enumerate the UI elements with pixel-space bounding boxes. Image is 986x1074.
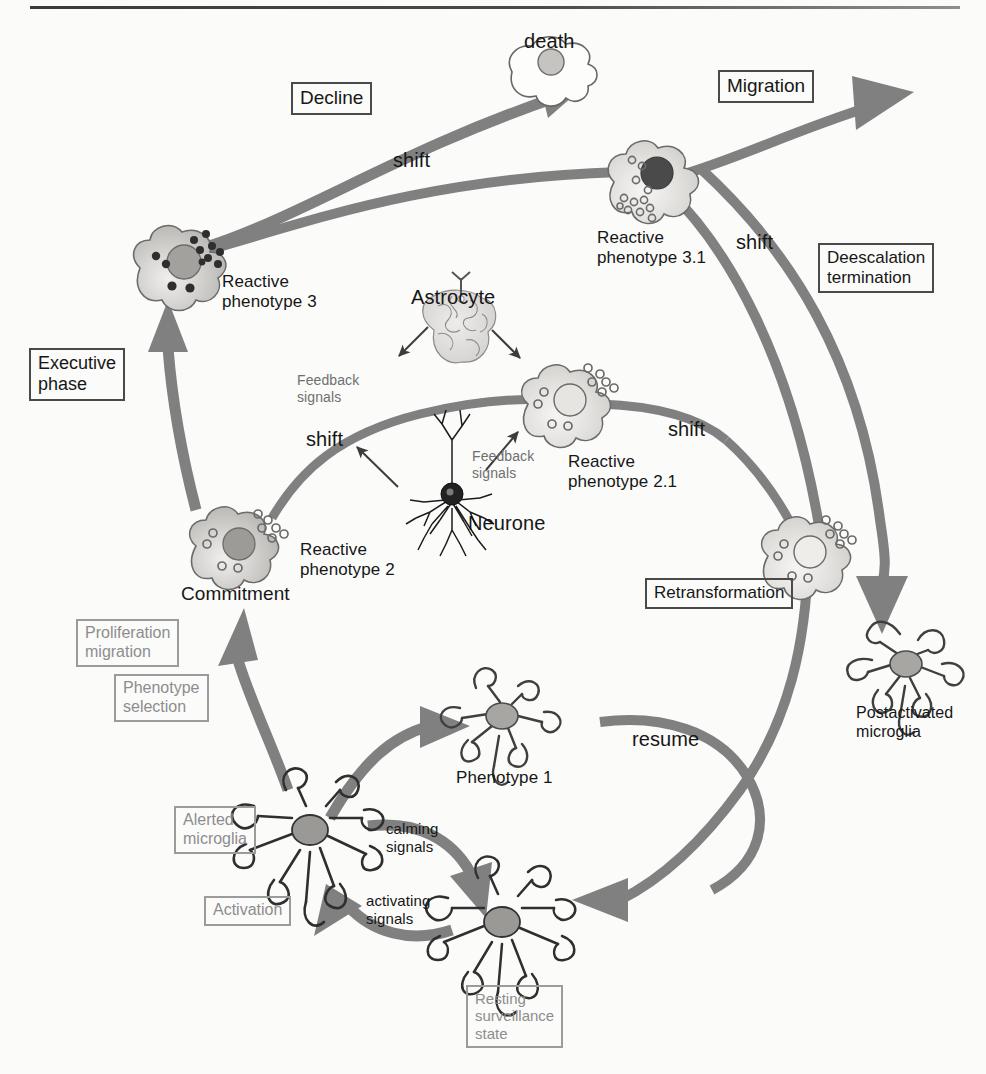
phase-box-executive-phase[interactable]: Executive phase <box>29 348 125 401</box>
cell-reactive-phenotype-2 <box>190 507 288 590</box>
label-commitment: Commitment <box>181 583 290 605</box>
label-calming-signals: calming signals <box>386 820 438 855</box>
arrow-feedback-neurone-left <box>357 447 398 487</box>
phase-box-retransformation[interactable]: Retransformation <box>645 578 793 609</box>
phase-box-decline[interactable]: Decline <box>291 82 372 115</box>
cell-reactive-phenotype-3 <box>134 226 226 311</box>
cell-reactive-phenotype-3-1 <box>608 141 698 224</box>
label-shift-top: shift <box>393 149 430 173</box>
diagram-vector-layer <box>0 0 986 1074</box>
label-reactive-phenotype-3: Reactive phenotype 3 <box>222 272 317 312</box>
phase-box-resting-surveillance-state[interactable]: Resting surveillance state <box>466 985 563 1048</box>
arrow-feedback-astrocyte-left <box>399 327 428 356</box>
label-activating-signals: activating signals <box>366 892 430 927</box>
phase-box-deescalation-termination[interactable]: Deescalation termination <box>818 243 934 293</box>
label-shift-mid-left: shift <box>306 428 343 452</box>
label-shift-mid-right: shift <box>668 418 705 442</box>
label-shift-right: shift <box>736 231 773 255</box>
phase-box-migration[interactable]: Migration <box>718 70 814 103</box>
arrow-feedback-astrocyte-right <box>492 330 520 358</box>
label-resume: resume <box>632 728 699 752</box>
label-neurone: Neurone <box>468 512 545 536</box>
phase-box-phenotype-selection[interactable]: Phenotype selection <box>114 674 209 722</box>
label-astrocyte: Astrocyte <box>411 286 495 310</box>
arrow-executive-phase <box>148 300 196 510</box>
label-reactive-phenotype-2-1: Reactive phenotype 2.1 <box>568 452 677 492</box>
label-reactive-phenotype-2: Reactive phenotype 2 <box>300 540 395 580</box>
arrow-alerted-to-phenotype1 <box>330 706 470 818</box>
label-reactive-phenotype-3-1: Reactive phenotype 3.1 <box>597 228 706 268</box>
phase-box-activation[interactable]: Activation <box>204 896 291 926</box>
label-phenotype-1: Phenotype 1 <box>456 768 553 788</box>
phase-box-alerted-microglia[interactable]: Alerted microglia <box>174 806 256 854</box>
label-postactivated-microglia: Postactivated microglia <box>856 704 953 742</box>
label-feedback-signals-neurone: Feedback signals <box>472 448 534 481</box>
figure-canvas: Decline Migration Deescalation terminati… <box>0 0 986 1074</box>
arrow-shift-top <box>200 172 620 252</box>
label-death: death <box>524 30 575 54</box>
cell-reactive-phenotype-2-1 <box>522 364 618 448</box>
phase-box-proliferation-migration[interactable]: Proliferation migration <box>76 619 179 667</box>
arrow-proliferation <box>218 608 288 790</box>
label-feedback-signals-astrocyte: Feedback signals <box>297 372 359 405</box>
